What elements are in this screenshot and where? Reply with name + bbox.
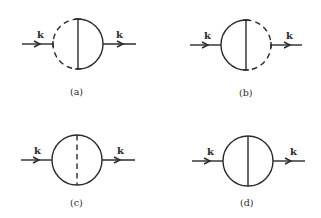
outgoing-momentum-label: k [290,146,298,157]
incoming-momentum-label: k [37,29,45,40]
diagram-panel-b: k k (b) [190,20,302,98]
diagram-panel-d: k k (d) [192,136,305,208]
panel-label: (d) [240,197,254,208]
panel-label: (b) [239,87,253,98]
solid-right-arc [78,19,103,69]
incoming-momentum-label: k [34,145,42,156]
outgoing-momentum-label: k [117,145,125,156]
outgoing-momentum-label: k [116,29,124,40]
solid-left-arc [221,20,246,70]
panel-label: (c) [70,197,83,208]
dashed-left-arc [53,19,78,69]
outgoing-momentum-label: k [286,30,294,41]
dashed-right-arc [246,20,271,70]
panel-label: (a) [70,86,83,97]
incoming-momentum-label: k [207,146,215,157]
feynman-diagram-figure: k k (a) k k (b) [0,0,321,218]
diagram-panel-a: k k (a) [22,19,136,97]
diagram-panel-c: k k (c) [21,135,135,208]
incoming-momentum-label: k [204,30,212,41]
